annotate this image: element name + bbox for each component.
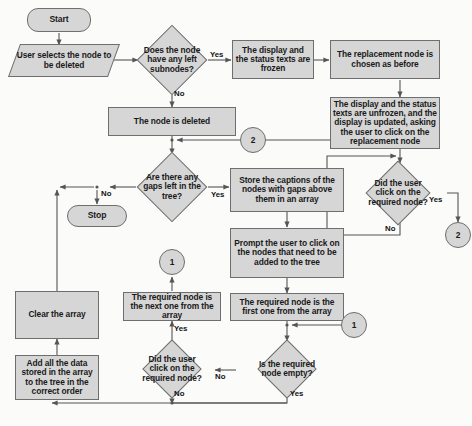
connector-2-left[interactable]: 2 [240,127,266,153]
decision-did-user-click-replacement-label: Did the user click on the required node? [367,179,429,206]
process-required-node-next[interactable]: The required node is the next one from t… [123,292,221,321]
io-user-selects-node[interactable]: User selects the node to be deleted [14,44,114,77]
edge-label-subnodes-yes: Yes [210,50,223,59]
process-node-deleted[interactable]: The node is deleted [108,107,236,136]
process-clear-the-array-label: Clear the array [28,310,85,319]
decision-has-left-subnodes-label: Does the node have any left subnodes? [139,46,205,73]
process-prompt-user-label: Prompt the user to click on the nodes th… [233,239,341,266]
terminator-stop[interactable]: Stop [67,205,127,227]
process-display-unfrozen[interactable]: The display and the status texts are unf… [330,97,440,149]
edge-label-gaps-no: No [101,189,111,198]
edge-label-replacement-yes: Yes [429,195,442,204]
edge-label-click-required-yes: Yes [174,324,187,333]
terminator-stop-label: Stop [88,211,107,220]
connector-1-left[interactable]: 1 [159,249,185,275]
edge-label-required-empty-no: No [215,372,225,381]
decision-is-required-node-empty-label: Is the required node empty? [251,360,323,378]
io-user-selects-node-label: User selects the node to be deleted [14,51,114,69]
edge-label-gaps-yes: Yes [211,190,224,199]
edge-label-replacement-no: No [385,224,395,233]
process-prompt-user[interactable]: Prompt the user to click on the nodes th… [230,228,344,278]
decision-is-required-node-empty[interactable]: Is the required node empty? [234,340,340,398]
process-display-unfrozen-label: The display and the status texts are unf… [333,100,437,145]
process-required-node-first-label: The required node is the first one from … [233,298,341,316]
connector-1-right-label: 1 [352,320,357,330]
process-display-frozen[interactable]: The display and the status texts are fro… [232,40,314,79]
decision-any-gaps-left-label: Are there any gaps left in the tree? [138,173,206,200]
decision-any-gaps-left[interactable]: Are there any gaps left in the tree? [122,152,222,222]
process-add-all-data-label: Add all the data stored in the array to … [18,359,96,395]
process-required-node-next-label: The required node is the next one from t… [126,293,218,320]
edge-label-subnodes-no: No [174,89,184,98]
edge-label-click-required-no: No [174,389,184,398]
terminator-start[interactable]: Start [27,8,91,32]
edge-label-required-empty-yes: Yes [290,389,303,398]
process-replacement-chosen-label: The replacement node is chosen as before [333,50,437,68]
process-store-captions[interactable]: Store the captions of the nodes with gap… [230,168,344,212]
process-required-node-first[interactable]: The required node is the first one from … [230,293,344,321]
process-add-all-data[interactable]: Add all the data stored in the array to … [15,355,99,400]
terminator-start-label: Start [49,15,68,24]
connector-1-right[interactable]: 1 [341,312,367,338]
process-display-frozen-label: The display and the status texts are fro… [235,46,311,73]
flowchart-canvas: Start User selects the node to be delete… [0,0,472,426]
connector-1-left-label: 1 [170,257,175,267]
decision-did-user-click-required[interactable]: Did the user click on the required node? [120,340,224,398]
connector-2-right-label: 2 [456,230,461,240]
decision-has-left-subnodes[interactable]: Does the node have any left subnodes? [136,25,208,95]
process-node-deleted-label: The node is deleted [134,117,210,126]
connector-2-left-label: 2 [251,135,256,145]
decision-did-user-click-replacement[interactable]: Did the user click on the required node? [348,161,448,225]
process-store-captions-label: Store the captions of the nodes with gap… [233,176,341,203]
process-clear-the-array[interactable]: Clear the array [15,291,99,339]
process-replacement-chosen[interactable]: The replacement node is chosen as before [330,40,440,79]
connector-2-right[interactable]: 2 [445,222,471,248]
decision-did-user-click-required-label: Did the user click on the required node? [141,355,203,382]
